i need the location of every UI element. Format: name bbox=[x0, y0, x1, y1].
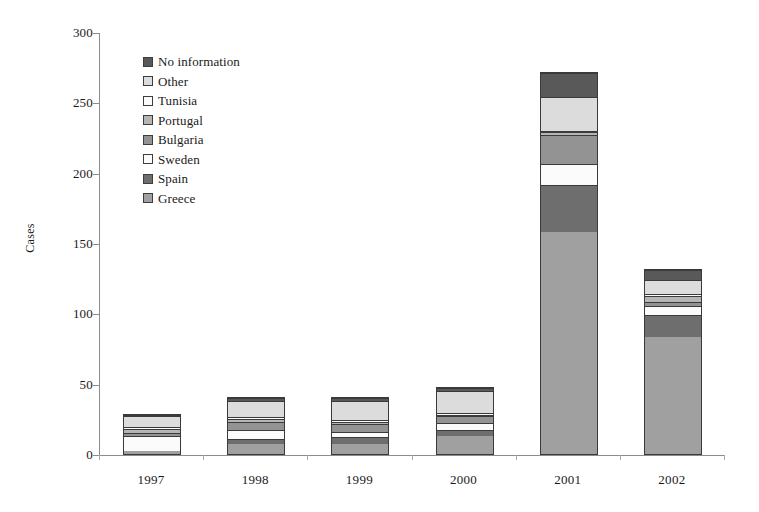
x-tick-mark bbox=[99, 455, 100, 460]
x-tick-mark bbox=[307, 455, 308, 460]
x-tick-mark bbox=[724, 455, 725, 460]
bar-group[interactable] bbox=[436, 387, 492, 455]
y-tick-label-wrap: 200 bbox=[0, 167, 93, 180]
legend-swatch-icon bbox=[143, 96, 153, 106]
x-tick-label: 1998 bbox=[205, 473, 305, 487]
chart-legend: No informationOtherTunisiaPortugalBulgar… bbox=[143, 52, 323, 208]
bar-segment[interactable] bbox=[228, 401, 284, 418]
legend-item-label: Portugal bbox=[158, 114, 203, 127]
x-tick-label: 1999 bbox=[309, 473, 409, 487]
legend-swatch-icon bbox=[143, 135, 153, 145]
y-tick-label: 50 bbox=[35, 378, 93, 391]
bar-segment[interactable] bbox=[645, 306, 701, 314]
bar-segment[interactable] bbox=[541, 164, 597, 185]
legend-swatch-icon bbox=[143, 76, 153, 86]
legend-swatch-icon bbox=[143, 154, 153, 164]
legend-item[interactable]: No information bbox=[143, 52, 323, 72]
bar-group[interactable] bbox=[644, 269, 700, 455]
legend-item[interactable]: Portugal bbox=[143, 111, 323, 131]
y-tick-mark bbox=[93, 174, 99, 175]
bar-segment[interactable] bbox=[332, 444, 388, 454]
bar-group[interactable] bbox=[540, 72, 596, 455]
legend-item-label: Spain bbox=[158, 172, 188, 185]
legend-item[interactable]: Other bbox=[143, 72, 323, 92]
legend-item[interactable]: Greece bbox=[143, 189, 323, 209]
legend-swatch-icon bbox=[143, 115, 153, 125]
legend-swatch-icon bbox=[143, 193, 153, 203]
bar-group[interactable] bbox=[331, 397, 387, 455]
y-tick-mark bbox=[93, 385, 99, 386]
y-tick-label-wrap: 0 bbox=[0, 448, 93, 461]
bar-segment[interactable] bbox=[541, 135, 597, 165]
bar-stack[interactable] bbox=[540, 72, 598, 455]
bar-stack[interactable] bbox=[436, 387, 494, 455]
legend-item[interactable]: Tunisia bbox=[143, 91, 323, 111]
bar-group[interactable] bbox=[227, 397, 283, 455]
bar-segment[interactable] bbox=[437, 423, 493, 430]
bar-segment[interactable] bbox=[124, 436, 180, 451]
x-tick-mark bbox=[412, 455, 413, 460]
bar-segment[interactable] bbox=[541, 97, 597, 131]
bar-segment[interactable] bbox=[332, 437, 388, 444]
bar-segment[interactable] bbox=[645, 337, 701, 454]
legend-item-label: Greece bbox=[158, 192, 195, 205]
x-tick-label: 2002 bbox=[622, 473, 722, 487]
bar-group[interactable] bbox=[123, 414, 179, 455]
legend-item[interactable]: Bulgaria bbox=[143, 130, 323, 150]
bar-stack[interactable] bbox=[227, 397, 285, 455]
bar-segment[interactable] bbox=[228, 422, 284, 430]
y-tick-label-wrap: 50 bbox=[0, 378, 93, 391]
y-tick-label: 250 bbox=[35, 96, 93, 109]
y-tick-label-wrap: 250 bbox=[0, 96, 93, 109]
y-tick-mark bbox=[93, 103, 99, 104]
x-tick-label: 2001 bbox=[518, 473, 618, 487]
bar-segment[interactable] bbox=[124, 416, 180, 427]
x-tick-label: 1997 bbox=[101, 473, 201, 487]
legend-swatch-icon bbox=[143, 174, 153, 184]
legend-item[interactable]: Sweden bbox=[143, 150, 323, 170]
legend-item-label: Sweden bbox=[158, 153, 200, 166]
bar-segment[interactable] bbox=[228, 430, 284, 438]
bar-segment[interactable] bbox=[332, 401, 388, 421]
y-tick-label-wrap: 150 bbox=[0, 237, 93, 250]
bar-stack[interactable] bbox=[644, 269, 702, 455]
bar-segment[interactable] bbox=[645, 315, 701, 338]
bar-segment[interactable] bbox=[228, 444, 284, 454]
x-tick-label: 2000 bbox=[414, 473, 514, 487]
y-tick-mark bbox=[93, 244, 99, 245]
legend-item[interactable]: Spain bbox=[143, 169, 323, 189]
legend-item-label: Bulgaria bbox=[158, 133, 204, 146]
legend-item-label: Other bbox=[158, 75, 188, 88]
y-tick-label: 300 bbox=[35, 26, 93, 39]
x-tick-mark bbox=[620, 455, 621, 460]
legend-item-label: Tunisia bbox=[158, 94, 197, 107]
legend-swatch-icon bbox=[143, 57, 153, 67]
bar-segment[interactable] bbox=[541, 73, 597, 97]
y-tick-label: 200 bbox=[35, 167, 93, 180]
chart-canvas: Cases 050100150200250300 199719981999200… bbox=[0, 0, 759, 512]
y-axis-line bbox=[99, 33, 100, 456]
bar-stack[interactable] bbox=[331, 397, 389, 455]
legend-item-label: No information bbox=[158, 55, 240, 68]
y-tick-mark bbox=[93, 314, 99, 315]
y-tick-mark bbox=[93, 33, 99, 34]
bar-segment[interactable] bbox=[124, 451, 180, 454]
x-tick-mark bbox=[203, 455, 204, 460]
bar-segment[interactable] bbox=[437, 416, 493, 423]
bar-segment[interactable] bbox=[541, 185, 597, 231]
x-tick-mark bbox=[516, 455, 517, 460]
bar-segment[interactable] bbox=[645, 280, 701, 294]
bar-segment[interactable] bbox=[541, 232, 597, 454]
bar-segment[interactable] bbox=[437, 436, 493, 454]
bar-segment[interactable] bbox=[332, 424, 388, 431]
bar-segment[interactable] bbox=[645, 270, 701, 280]
bar-stack[interactable] bbox=[123, 414, 181, 455]
y-tick-label-wrap: 100 bbox=[0, 307, 93, 320]
y-tick-label: 150 bbox=[35, 237, 93, 250]
y-tick-label: 0 bbox=[35, 448, 93, 461]
y-tick-label: 100 bbox=[35, 307, 93, 320]
y-tick-label-wrap: 300 bbox=[0, 26, 93, 39]
bar-segment[interactable] bbox=[437, 391, 493, 414]
